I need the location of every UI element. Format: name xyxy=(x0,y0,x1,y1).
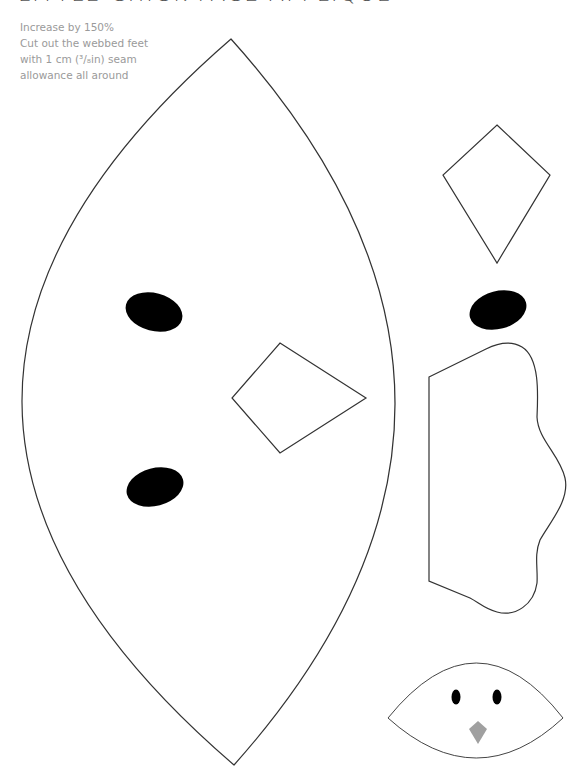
preview-face-outline xyxy=(388,663,563,758)
pattern-sheet xyxy=(0,0,584,780)
webbed-foot-piece xyxy=(429,343,566,613)
head-piece xyxy=(22,39,395,765)
beak-piece xyxy=(443,125,550,263)
eye-piece-icon xyxy=(465,284,531,336)
preview-right-eye-icon xyxy=(493,690,502,705)
preview-left-eye-icon xyxy=(452,690,461,705)
finished-chick-face-preview xyxy=(388,663,563,758)
